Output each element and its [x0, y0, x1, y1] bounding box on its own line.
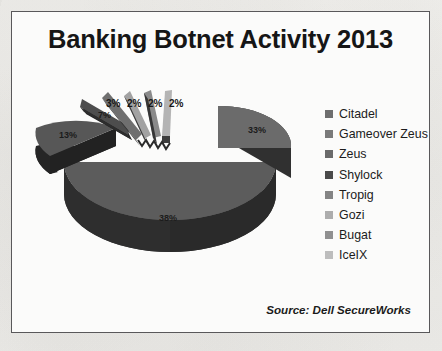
pie-label-tropig: 3%	[106, 98, 121, 109]
legend-swatch-icon	[325, 130, 333, 138]
pie-chart-svg: 38% 33% 13%	[20, 74, 320, 314]
legend-label: Citadel	[339, 107, 378, 121]
pie-label-bugat: 2%	[148, 98, 163, 109]
legend-swatch-icon	[325, 110, 333, 118]
chart-title: Banking Botnet Activity 2013	[12, 25, 429, 54]
legend-swatch-icon	[325, 171, 333, 179]
legend-label: Shylock	[339, 168, 382, 182]
pie-label-citadel: 33%	[248, 125, 266, 135]
legend-item-iceix[interactable]: IceIX	[325, 245, 442, 265]
pie-label-gameover-zeus: 38%	[159, 213, 177, 223]
legend-swatch-icon	[325, 191, 333, 199]
source-attribution: Source: Dell SecureWorks	[266, 303, 411, 316]
pie-label-gozi: 2%	[127, 98, 142, 109]
pie-label-iceix: 2%	[169, 98, 184, 109]
chart-frame: Banking Botnet Activity 2013 38% 33%	[11, 11, 430, 333]
legend-item-citadel[interactable]: Citadel	[325, 104, 442, 124]
legend-swatch-icon	[325, 150, 333, 158]
legend-label: Zeus	[339, 147, 367, 161]
legend-swatch-icon	[325, 251, 333, 259]
legend-label: IceIX	[339, 248, 367, 262]
pie-chart: 38% 33% 13%	[20, 74, 320, 314]
legend-label: Tropig	[339, 188, 374, 202]
chart-legend: Citadel Gameover Zeus Zeus Shylock Tropi…	[325, 104, 442, 266]
pie-label-zeus: 13%	[59, 130, 77, 140]
legend-label: Bugat	[339, 228, 371, 242]
legend-label: Gozi	[339, 208, 364, 222]
legend-swatch-icon	[325, 231, 333, 239]
legend-swatch-icon	[325, 211, 333, 219]
legend-label: Gameover Zeus	[339, 127, 428, 141]
legend-item-shylock[interactable]: Shylock	[325, 165, 442, 185]
legend-item-gozi[interactable]: Gozi	[325, 205, 442, 225]
legend-item-bugat[interactable]: Bugat	[325, 225, 442, 245]
legend-item-zeus[interactable]: Zeus	[325, 144, 442, 164]
legend-item-gameover-zeus[interactable]: Gameover Zeus	[325, 124, 442, 144]
legend-item-tropig[interactable]: Tropig	[325, 185, 442, 205]
pie-label-shylock: 7%	[98, 110, 111, 120]
